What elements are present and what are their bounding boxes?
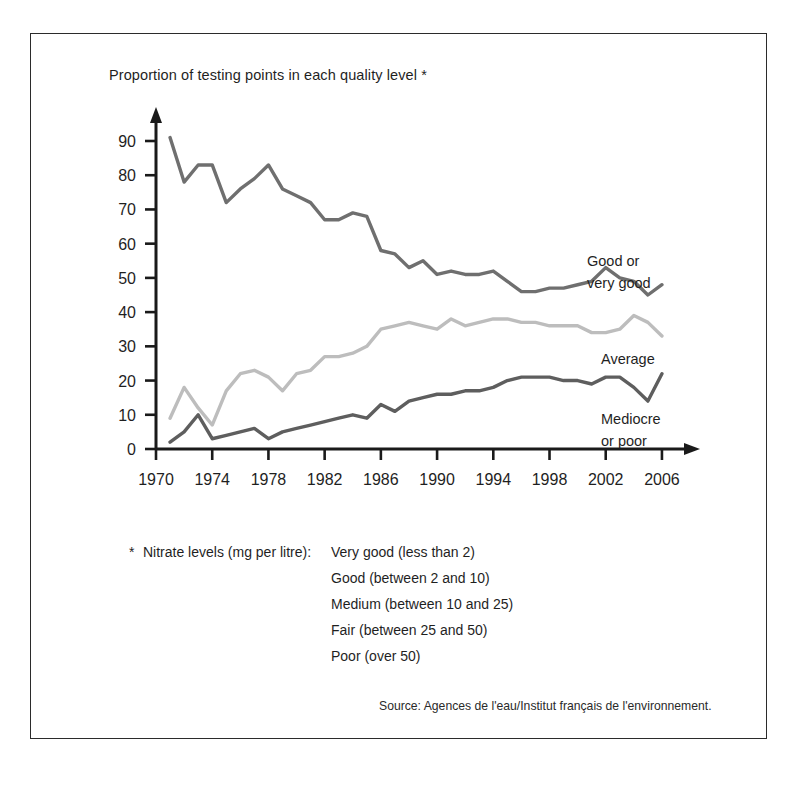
x-axis-tick-label: 1970: [138, 471, 174, 488]
footnote-marker: *: [129, 539, 143, 565]
footnote-row: * Nitrate levels (mg per litre): Very go…: [129, 539, 689, 565]
y-axis-tick-label: 30: [118, 338, 136, 355]
x-axis-tick-label: 1998: [532, 471, 568, 488]
x-axis-tick-label: 1990: [419, 471, 455, 488]
footnote-value: Very good (less than 2): [331, 539, 475, 565]
footnote-value: Good (between 2 and 10): [331, 565, 490, 591]
y-axis-tick-label: 20: [118, 373, 136, 390]
footnote-value: Medium (between 10 and 25): [331, 591, 513, 617]
series-line: [170, 374, 662, 442]
x-axis-tick-label: 2006: [644, 471, 680, 488]
footnote-row: Medium (between 10 and 25): [129, 591, 689, 617]
x-axis-tick-label: 1978: [251, 471, 287, 488]
series-line: [170, 316, 662, 426]
footnote-block: * Nitrate levels (mg per litre): Very go…: [129, 539, 689, 669]
x-axis-tick-label: 1974: [194, 471, 230, 488]
x-axis-tick-label: 1982: [307, 471, 343, 488]
series-label: Good or: [587, 253, 640, 269]
x-axis-ticks: [156, 449, 662, 460]
figure-frame: Proportion of testing points in each qua…: [30, 33, 767, 739]
y-axis-tick-label: 70: [118, 201, 136, 218]
footnote-row: Poor (over 50): [129, 643, 689, 669]
x-axis-tick-label: 1986: [363, 471, 399, 488]
y-axis-tick-label: 10: [118, 407, 136, 424]
y-axis-arrowhead: [150, 107, 162, 123]
footnote-row: Fair (between 25 and 50): [129, 617, 689, 643]
y-axis-tick-label: 80: [118, 167, 136, 184]
y-axis-tick-label: 90: [118, 133, 136, 150]
y-axis-ticks: [145, 141, 156, 449]
x-axis-arrowhead: [684, 443, 700, 455]
footnote-key-label: Nitrate levels (mg per litre):: [143, 539, 331, 565]
series-label: or poor: [601, 433, 647, 449]
series-label: very good: [587, 275, 651, 291]
y-axis-tick-label: 60: [118, 236, 136, 253]
series-label: Mediocre: [601, 411, 661, 427]
y-axis-tick-label: 50: [118, 270, 136, 287]
footnote-row: Good (between 2 and 10): [129, 565, 689, 591]
series-label: Average: [601, 351, 655, 367]
x-axis-tick-labels: 1970197419781982198619901994199820022006: [138, 471, 680, 488]
x-axis-tick-label: 1994: [476, 471, 512, 488]
series-inline-labels: Good orvery goodAverageMediocreor poor: [587, 253, 661, 449]
y-axis-tick-label: 40: [118, 304, 136, 321]
source-attribution: Source: Agences de l'eau/Institut frança…: [379, 699, 712, 713]
y-axis-tick-labels: 9080706050403020100: [118, 133, 136, 458]
series-line: [170, 138, 662, 295]
footnote-value: Fair (between 25 and 50): [331, 617, 487, 643]
x-axis-tick-label: 2002: [588, 471, 624, 488]
footnote-value: Poor (over 50): [331, 643, 420, 669]
y-axis-tick-label: 0: [127, 441, 136, 458]
